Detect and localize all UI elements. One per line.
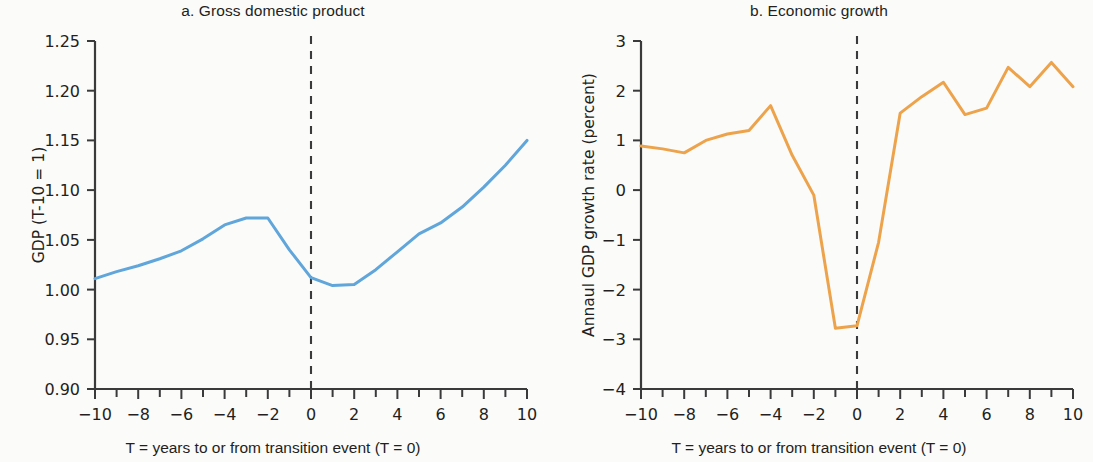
panel-b-ytick-7: −4 [602, 380, 626, 399]
panel-b-ytick-4: −1 [602, 231, 626, 250]
panel-a-plot: 1.25 1.20 1.15 1.10 1.05 1.00 0.95 0.90 [0, 0, 546, 462]
panel-a-xtick-6: 2 [349, 405, 359, 424]
panel-a-y-ticks [87, 41, 95, 389]
panel-b-y-axis-title: Annaul GDP growth rate (percent) [580, 60, 598, 350]
panel-b-xtick-3: −4 [759, 405, 783, 424]
panel-a-ytick-7: 0.90 [44, 380, 80, 399]
panel-b-xtick-6: 2 [895, 405, 905, 424]
panel-a-xtick-5: 0 [306, 405, 316, 424]
panel-a-x-axis-title: T = years to or from transition event (T… [0, 439, 546, 457]
panel-b-xtick-5: 0 [852, 405, 862, 424]
panel-b-x-axis-title: T = years to or from transition event (T… [546, 439, 1092, 457]
panel-a-x-ticks [95, 389, 527, 399]
panel-b-ytick-6: −3 [602, 330, 626, 349]
panel-b-xtick-0: −10 [624, 405, 658, 424]
panel-b-ytick-3: 0 [616, 181, 627, 200]
panel-b-xtick-7: 4 [938, 405, 948, 424]
panel-a-ytick-5: 1.00 [44, 281, 80, 300]
panel-a-xtick-7: 4 [392, 405, 402, 424]
panel-a-xtick-10: 10 [517, 405, 537, 424]
panel-a-ytick-0: 1.25 [44, 32, 80, 51]
panel-b-plot: 3 2 1 0 −1 −2 −3 −4 [546, 0, 1092, 462]
panel-a-xtick-1: −8 [126, 405, 150, 424]
panel-a-ytick-3: 1.10 [44, 181, 80, 200]
panel-a-xtick-4: −2 [256, 405, 280, 424]
panel-a-ytick-2: 1.15 [44, 131, 80, 150]
panel-a-xtick-8: 6 [436, 405, 446, 424]
panel-b-xtick-8: 6 [982, 405, 992, 424]
panel-a-xtick-9: 8 [479, 405, 489, 424]
panel-a-ytick-1: 1.20 [44, 82, 80, 101]
panel-b-xtick-2: −6 [716, 405, 740, 424]
panel-b-x-ticks [641, 389, 1073, 399]
panel-economic-growth: b. Economic growth 3 2 1 0 −1 −2 −3 −4 [546, 0, 1092, 462]
panel-b-y-ticks [633, 41, 641, 389]
panel-b-xtick-1: −8 [672, 405, 696, 424]
panel-a-ytick-6: 0.95 [44, 330, 80, 349]
panel-b-ytick-1: 2 [616, 82, 627, 101]
panel-b-xtick-10: 10 [1063, 405, 1083, 424]
panel-b-ytick-5: −2 [602, 281, 626, 300]
figure-two-panel-chart: a. Gross domestic product 1.25 1.20 1.15 [0, 0, 1093, 462]
panel-a-y-axis-title: GDP (T-10 = 1) [30, 90, 48, 320]
panel-gross-domestic-product: a. Gross domestic product 1.25 1.20 1.15 [0, 0, 546, 462]
panel-b-xtick-9: 8 [1025, 405, 1035, 424]
panel-b-xtick-4: −2 [802, 405, 826, 424]
panel-a-xtick-2: −6 [170, 405, 194, 424]
panel-a-xtick-0: −10 [78, 405, 112, 424]
panel-b-ytick-0: 3 [616, 32, 627, 51]
panel-b-ytick-2: 1 [616, 131, 627, 150]
panel-a-xtick-3: −4 [213, 405, 237, 424]
panel-a-ytick-4: 1.05 [44, 231, 80, 250]
